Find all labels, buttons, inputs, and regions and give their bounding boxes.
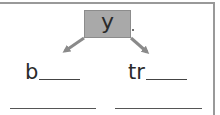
right-word-blank[interactable] [146, 79, 187, 80]
right-answer-line[interactable] [115, 108, 202, 109]
left-arrow-icon [65, 38, 84, 51]
left-word-blank[interactable] [39, 79, 80, 80]
left-answer-line[interactable] [10, 108, 96, 109]
right-word-prefix: tr [128, 62, 145, 83]
branch-arrows [0, 0, 220, 115]
right-arrow-icon [131, 38, 147, 52]
left-word-prefix: b [25, 62, 38, 83]
